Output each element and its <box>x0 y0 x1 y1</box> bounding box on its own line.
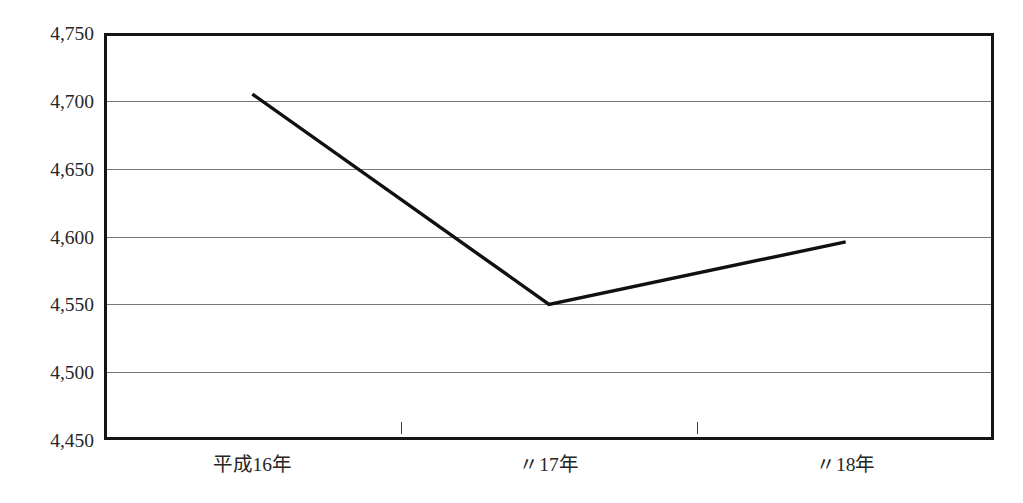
x-axis-label-0: 平成16年 <box>213 455 293 475</box>
y-axis-tick-label: 4,700 <box>16 92 94 112</box>
gridline-4550 <box>107 304 991 305</box>
gridline-4600 <box>107 237 991 238</box>
chart-title <box>0 0 1023 6</box>
x-axis-label-2: 〃18年 <box>816 455 876 475</box>
y-axis-tick-label: 4,750 <box>16 24 94 44</box>
y-axis-tick-label: 4,550 <box>16 295 94 315</box>
y-axis-tick-label: 4,500 <box>16 363 94 383</box>
line-chart-figure: 4,750 4,700 4,650 4,600 4,550 4,500 4,45… <box>0 0 1023 503</box>
x-axis-label-1: 〃17年 <box>519 455 579 475</box>
plot-area <box>104 33 994 440</box>
gridline-4500 <box>107 372 991 373</box>
y-axis-tick-label: 4,600 <box>16 228 94 248</box>
gridline-4650 <box>107 169 991 170</box>
x-axis-tick-1 <box>401 422 402 434</box>
gridline-4700 <box>107 101 991 102</box>
y-axis-tick-label: 4,450 <box>16 431 94 451</box>
y-axis-tick-label: 4,650 <box>16 160 94 180</box>
x-axis-tick-2 <box>697 422 698 434</box>
